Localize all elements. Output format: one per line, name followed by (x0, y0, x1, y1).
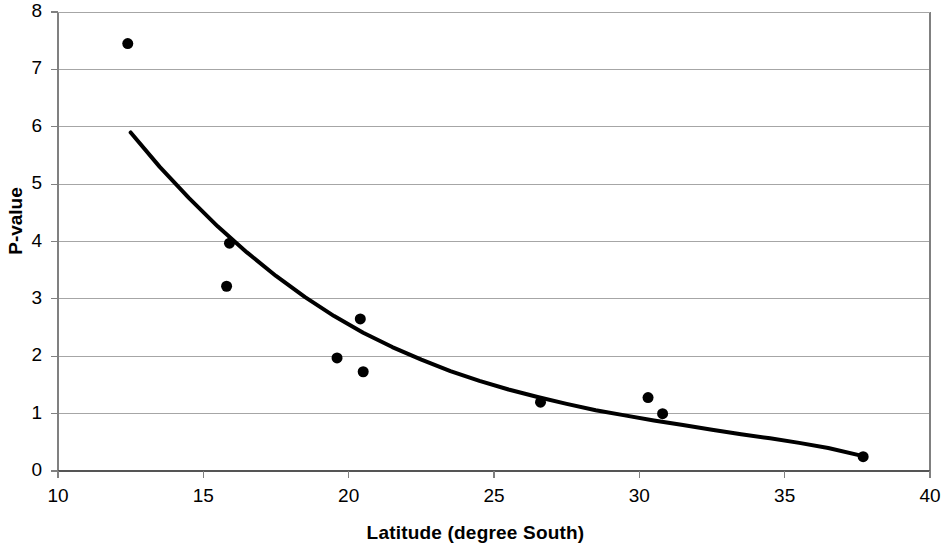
x-tick-label: 30 (609, 485, 669, 507)
x-tick-label: 15 (173, 485, 233, 507)
x-tick-label: 25 (464, 485, 524, 507)
y-tick-label: 2 (8, 344, 42, 366)
data-point-marker (224, 238, 235, 249)
data-point-marker (332, 352, 343, 363)
x-tick-label: 40 (900, 485, 951, 507)
y-tick-label: 6 (8, 115, 42, 137)
data-point-marker (355, 313, 366, 324)
data-point-marker (535, 397, 546, 408)
y-tick-label: 3 (8, 287, 42, 309)
y-tick-label: 0 (8, 459, 42, 481)
x-axis-title: Latitude (degree South) (0, 522, 951, 544)
x-tick-label: 10 (28, 485, 88, 507)
data-point-marker (358, 366, 369, 377)
data-point-marker (657, 408, 668, 419)
y-tick-label: 7 (8, 57, 42, 79)
x-tick-label: 35 (755, 485, 815, 507)
gridlines (58, 12, 930, 471)
x-tick-label: 20 (319, 485, 379, 507)
plot-area (0, 0, 951, 553)
chart-container: 012345678 10152025303540 P-value Latitud… (0, 0, 951, 553)
data-point-marker (122, 38, 133, 49)
data-point-marker (858, 451, 869, 462)
tick-marks (51, 12, 930, 478)
y-tick-label: 1 (8, 402, 42, 424)
trend-curve-line (131, 132, 863, 456)
y-tick-label: 8 (8, 0, 42, 22)
data-point-marker (643, 392, 654, 403)
data-points (122, 38, 868, 462)
data-point-marker (221, 281, 232, 292)
trend-curve (131, 132, 863, 456)
y-axis-title: P-value (5, 161, 27, 281)
